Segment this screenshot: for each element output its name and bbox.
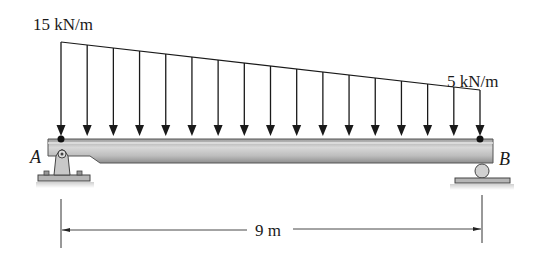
beam: [48, 139, 493, 163]
load-arrows: [57, 42, 485, 136]
arrow-head-icon: [109, 125, 118, 136]
left-load-point: [58, 136, 65, 143]
arrow-head-icon: [135, 125, 144, 136]
arrow-head-icon: [318, 125, 327, 136]
arrow-head-icon: [292, 125, 301, 136]
arrow-head-icon: [187, 125, 196, 136]
arrow-head-icon: [240, 125, 249, 136]
arrow-head-icon: [214, 125, 223, 136]
span-label: 9 m: [255, 221, 281, 240]
arrow-head-icon: [476, 125, 485, 136]
support-b-label: B: [499, 149, 510, 169]
load-right-label: 5 kN/m: [447, 72, 498, 91]
arrow-head-icon: [83, 125, 92, 136]
support-a-label: A: [29, 147, 42, 167]
arrow-head-icon: [397, 125, 406, 136]
load-left-label: 15 kN/m: [33, 15, 93, 34]
arrow-head-icon: [161, 125, 170, 136]
arrow-head-icon: [266, 125, 275, 136]
beam-diagram: 15 kN/m 5 kN/m A B 9 m: [0, 0, 539, 267]
arrow-head-icon: [57, 125, 66, 136]
arrow-head-icon: [423, 125, 432, 136]
distributed-load: [57, 42, 485, 136]
arrow-head-icon: [371, 125, 380, 136]
arrow-head-icon: [449, 125, 458, 136]
arrow-head-icon: [345, 125, 354, 136]
right-load-point: [477, 136, 484, 143]
